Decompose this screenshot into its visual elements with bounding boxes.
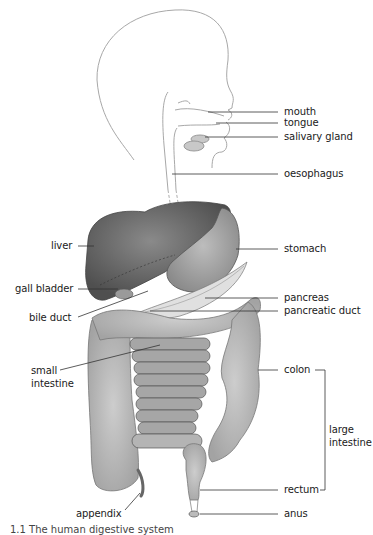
label-rectum: rectum xyxy=(284,484,319,496)
rectum-shape xyxy=(183,444,206,500)
small-intestine-coils xyxy=(130,338,210,448)
label-stomach: stomach xyxy=(284,243,326,255)
label-large-intestine-line2: intestine xyxy=(329,437,372,449)
label-bile-duct: bile duct xyxy=(29,312,71,324)
figure-caption: 1.1 The human digestive system xyxy=(10,524,174,535)
label-small-intestine-line2: intestine xyxy=(31,378,74,390)
label-anus: anus xyxy=(284,508,308,520)
label-liver: liver xyxy=(51,240,72,252)
label-large-intestine-line1: large xyxy=(329,424,354,436)
head-outline xyxy=(97,10,233,190)
label-appendix: appendix xyxy=(76,508,122,520)
anus-shape xyxy=(189,511,199,517)
appendix-shape xyxy=(138,470,143,496)
label-pancreatic-duct: pancreatic duct xyxy=(284,305,360,317)
label-gall-bladder: gall bladder xyxy=(15,283,73,295)
label-salivary-gland: salivary gland xyxy=(284,131,353,143)
label-small-intestine-line1: small xyxy=(31,365,57,377)
label-pancreas: pancreas xyxy=(284,292,329,304)
label-tongue: tongue xyxy=(284,117,319,129)
label-oesophagus: oesophagus xyxy=(284,168,343,180)
label-colon: colon xyxy=(284,364,310,376)
